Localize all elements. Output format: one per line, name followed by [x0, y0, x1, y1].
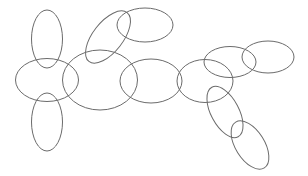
- ellipse-middle: [120, 59, 182, 103]
- ellipse-center-large: [63, 50, 138, 110]
- ellipse-top-right-of-tilted: [117, 8, 173, 42]
- ellipse-bottom-tilted: [223, 114, 276, 175]
- ellipse-left-horizontal: [16, 59, 79, 102]
- ellipse-diagram: [0, 0, 308, 176]
- ellipse-upper-tilted: [77, 3, 139, 70]
- ellipse-far-right: [242, 41, 294, 73]
- ellipse-lower-tilted: [199, 81, 250, 144]
- ellipse-upper-right: [204, 47, 256, 78]
